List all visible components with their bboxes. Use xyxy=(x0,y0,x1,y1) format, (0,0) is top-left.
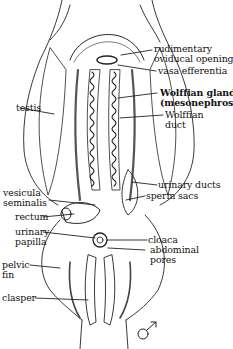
rectum xyxy=(62,203,100,224)
oviducal-opening xyxy=(97,56,117,64)
pelvic-fin-right xyxy=(126,215,164,320)
label-vasa-efferentia: vasa efferentia xyxy=(158,66,227,76)
label-wolffian-gland: Wolffian gland (mesonephros) xyxy=(160,88,233,108)
testis-left xyxy=(39,48,66,195)
label-wolffian-duct: Wolffian duct xyxy=(165,110,203,130)
label-urinary-papilla: urinary papilla xyxy=(15,227,49,247)
label-sperm-sacs: sperm sacs xyxy=(146,191,198,201)
label-abdominal-pores: abdominal pores xyxy=(150,245,199,265)
clasper-left xyxy=(85,255,96,325)
label-pelvic-fin: pelvic fin xyxy=(2,260,30,280)
label-urinary-ducts: urinary ducts xyxy=(158,180,220,190)
clasper-right xyxy=(104,255,115,325)
label-rectum: rectum xyxy=(15,212,48,222)
urinary-papilla xyxy=(93,233,107,247)
label-testis: testis xyxy=(16,103,41,113)
wolffian-gland-right xyxy=(109,70,120,190)
label-clasper: clasper xyxy=(2,293,36,303)
skin-flap-right xyxy=(140,5,160,42)
male-symbol-icon xyxy=(138,322,156,339)
wolffian-duct-coil-left xyxy=(90,72,94,186)
wolffian-duct-coil-right xyxy=(112,72,116,186)
label-vesicula-seminalis: vesicula seminalis xyxy=(3,188,47,208)
label-rudimentary-oviducal-opening: rudimentary oviducal opening xyxy=(154,44,233,64)
